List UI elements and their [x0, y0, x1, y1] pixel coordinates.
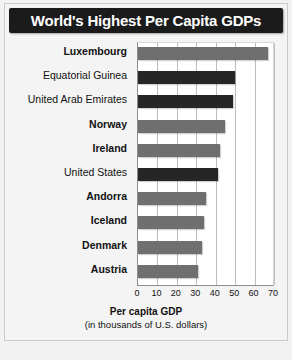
bar — [138, 192, 206, 205]
bar — [138, 168, 218, 181]
gridline — [255, 43, 256, 285]
category-label: Andorra — [86, 190, 127, 202]
bar — [138, 265, 198, 278]
bar — [138, 71, 235, 84]
category-label: Austria — [91, 263, 127, 275]
category-label: United Arab Emirates — [28, 93, 127, 105]
chart-figure: World's Highest Per Capita GDPs Luxembou… — [0, 0, 292, 360]
x-axis-subtitle: (in thousands of U.S. dollars) — [0, 319, 292, 330]
bar — [138, 241, 202, 254]
category-label: Equatorial Guinea — [43, 69, 127, 81]
x-tick-label: 70 — [268, 288, 278, 299]
bar — [138, 47, 268, 60]
x-tick-label: 0 — [134, 288, 139, 299]
x-tick-label: 30 — [190, 288, 200, 299]
x-axis-title: Per capita GDP — [0, 306, 292, 317]
category-label: Norway — [89, 118, 127, 130]
category-label: Ireland — [93, 142, 127, 154]
category-label: Denmark — [82, 239, 127, 251]
x-tick-label: 60 — [249, 288, 259, 299]
gridline — [274, 43, 275, 285]
x-tick-label: 50 — [229, 288, 239, 299]
category-label: Iceland — [91, 214, 127, 226]
bar — [138, 95, 233, 108]
plot-wrapper: LuxembourgEquatorial GuineaUnited Arab E… — [0, 40, 292, 292]
chart-title-bar: World's Highest Per Capita GDPs — [9, 8, 283, 33]
gridline — [235, 43, 236, 285]
bar — [138, 144, 220, 157]
bar — [138, 216, 204, 229]
x-tick-label: 20 — [171, 288, 181, 299]
x-axis-ticks: 010203040506070 — [137, 288, 274, 300]
chart-title: World's Highest Per Capita GDPs — [9, 8, 283, 33]
category-label: United States — [64, 166, 127, 178]
category-label: Luxembourg — [63, 45, 127, 57]
x-tick-label: 40 — [210, 288, 220, 299]
bar — [138, 120, 225, 133]
category-label-column: LuxembourgEquatorial GuineaUnited Arab E… — [0, 40, 131, 286]
plot-area: EuropeanCountriesOtherCountries — [137, 42, 274, 286]
x-tick-label: 10 — [151, 288, 161, 299]
